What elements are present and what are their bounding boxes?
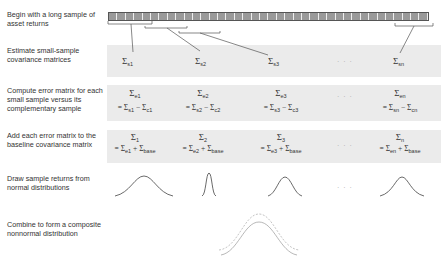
error-e2: Σe2 = Σs2 − Σc2 (178, 88, 228, 113)
ellipsis: · · · (337, 184, 353, 191)
ellipsis: · · · (337, 58, 353, 65)
error-en: Σen = Σsn − Σcn (375, 88, 425, 113)
ellipsis: · · · (337, 93, 353, 100)
cov-s2: Σs2 (195, 56, 206, 67)
composite-normal-curve (221, 222, 297, 255)
error-e1: Σe1 = Σs1 − Σc1 (110, 88, 160, 113)
cov-2: Σ2 = Σe2 + Σbase (178, 132, 228, 154)
cov-3: Σ3 = Σe3 + Σbase (256, 132, 306, 154)
cov-n: Σn = Σen + Σbase (375, 132, 425, 154)
cov-sn: Σsn (393, 56, 404, 67)
bracket-connectors (0, 0, 441, 261)
ellipsis: · · · (337, 142, 353, 149)
cov-s3: Σs3 (268, 56, 279, 67)
composite-nonnormal-curve (219, 214, 299, 250)
normal-curves (115, 173, 424, 196)
cov-1: Σ1 = Σe1 + Σbase (110, 132, 160, 154)
cov-s1: Σs1 (122, 56, 133, 67)
error-e3: Σe3 = Σs3 − Σc3 (256, 88, 306, 113)
